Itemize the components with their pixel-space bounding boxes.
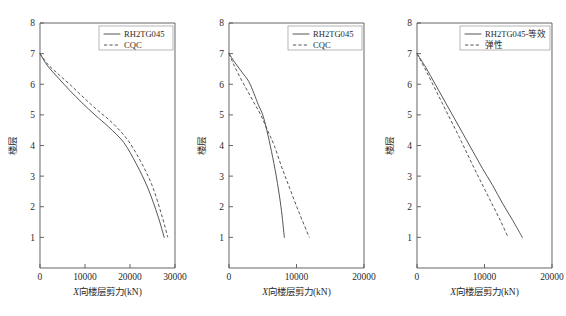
y-tick-label-7: 7 [30, 49, 35, 59]
legend-label-2: CQC [313, 40, 331, 50]
y-axis-title: 楼层 [196, 137, 207, 155]
legend-label-2: CQC [124, 40, 142, 50]
x-axis-title: X向楼层剪力(kN) [261, 286, 331, 298]
series-curve-1 [229, 54, 284, 238]
plot-frame [40, 23, 175, 268]
x-axis-title: X向楼层剪力(kN) [449, 286, 519, 298]
y-tick-label-3: 3 [407, 172, 412, 182]
series-curve-1 [417, 54, 522, 238]
chart-svg-1: 123456780100002000030000X向楼层剪力(kN)楼层RH2T… [0, 0, 189, 316]
y-tick-label-4: 4 [407, 141, 412, 151]
y-tick-label-1: 1 [407, 233, 412, 243]
legend-label-1: RH2TG045-等效 [485, 28, 546, 39]
x-axis-title-text: 向楼层剪力(kN) [79, 286, 142, 298]
x-tick-label-0: 0 [415, 272, 420, 282]
y-tick-label-2: 2 [30, 202, 35, 212]
series-curve-1 [40, 54, 164, 238]
figure-three-panel-line-charts: 123456780100002000030000X向楼层剪力(kN)楼层RH2T… [0, 0, 566, 316]
x-tick-label-20000: 20000 [352, 272, 376, 282]
chart-panel-1: 123456780100002000030000X向楼层剪力(kN)楼层RH2T… [0, 0, 189, 316]
chart-svg-3: 1234567801000020000X向楼层剪力(kN)楼层RH2TG045-… [377, 0, 566, 316]
y-tick-label-7: 7 [407, 49, 412, 59]
x-axis-title-text: 向楼层剪力(kN) [268, 286, 331, 298]
plot-frame [229, 23, 364, 268]
chart-panel-2: 1234567801000020000X向楼层剪力(kN)楼层RH2TG045C… [189, 0, 378, 316]
y-tick-label-1: 1 [219, 233, 224, 243]
x-axis-title: X向楼层剪力(kN) [72, 286, 142, 298]
y-tick-label-4: 4 [30, 141, 35, 151]
series-curve-2 [40, 54, 168, 238]
x-axis-title-text: 向楼层剪力(kN) [456, 286, 519, 298]
y-tick-label-7: 7 [219, 49, 224, 59]
y-tick-label-6: 6 [30, 80, 35, 90]
y-tick-label-5: 5 [219, 110, 224, 120]
legend-label-2: 弹性 [485, 39, 503, 50]
y-axis-title: 楼层 [7, 137, 18, 155]
x-tick-label-10000: 10000 [73, 272, 97, 282]
x-tick-label-10000: 10000 [473, 272, 497, 282]
series-curve-2 [417, 54, 508, 238]
chart-panel-3: 1234567801000020000X向楼层剪力(kN)楼层RH2TG045-… [377, 0, 566, 316]
y-tick-label-4: 4 [219, 141, 224, 151]
chart-svg-2: 1234567801000020000X向楼层剪力(kN)楼层RH2TG045C… [189, 0, 378, 316]
plot-frame [417, 23, 552, 268]
series-curve-2 [229, 54, 309, 238]
y-tick-label-6: 6 [407, 80, 412, 90]
x-tick-label-20000: 20000 [540, 272, 564, 282]
y-tick-label-8: 8 [219, 18, 224, 28]
x-tick-label-10000: 10000 [284, 272, 308, 282]
y-tick-label-6: 6 [219, 80, 224, 90]
y-tick-label-1: 1 [30, 233, 35, 243]
y-tick-label-8: 8 [407, 18, 412, 28]
y-tick-label-8: 8 [30, 18, 35, 28]
y-tick-label-2: 2 [407, 202, 412, 212]
y-tick-label-2: 2 [219, 202, 224, 212]
y-tick-label-3: 3 [30, 172, 35, 182]
legend-label-1: RH2TG045 [313, 29, 354, 39]
y-tick-label-3: 3 [219, 172, 224, 182]
x-tick-label-0: 0 [226, 272, 231, 282]
y-tick-label-5: 5 [30, 110, 35, 120]
x-tick-label-0: 0 [38, 272, 43, 282]
legend-label-1: RH2TG045 [124, 29, 165, 39]
x-tick-label-30000: 30000 [163, 272, 187, 282]
y-tick-label-5: 5 [407, 110, 412, 120]
x-tick-label-20000: 20000 [118, 272, 142, 282]
y-axis-title: 楼层 [384, 137, 395, 155]
